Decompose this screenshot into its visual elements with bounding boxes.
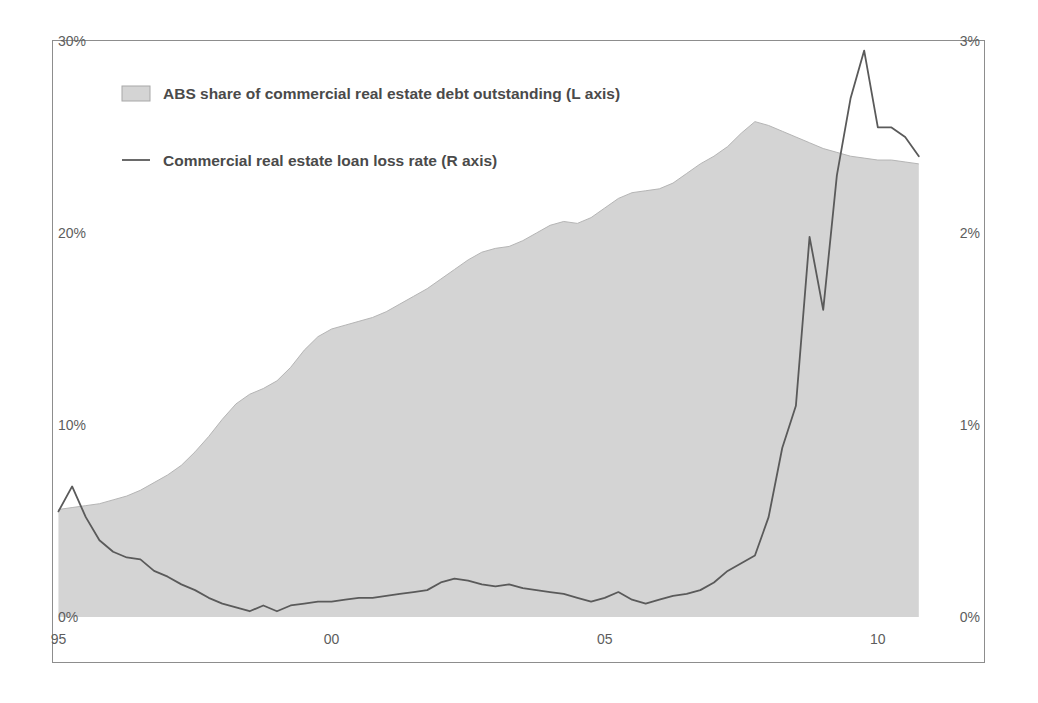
y-right-tick-2: 2% xyxy=(960,225,980,241)
y-left-tick-0: 0% xyxy=(58,609,78,625)
legend-label-abs-share: ABS share of commercial real estate debt… xyxy=(163,85,620,102)
chart-figure: 0%10%20%30% 0%1%2%3% 95000510 ABS share … xyxy=(0,0,1038,703)
y-right-tick-3: 3% xyxy=(960,33,980,49)
legend-label-loss-rate: Commercial real estate loan loss rate (R… xyxy=(163,152,497,169)
x-axis-ticks: 95000510 xyxy=(51,631,886,647)
x-tick-1: 00 xyxy=(324,631,340,647)
legend-swatch-abs-share xyxy=(122,86,150,101)
series-area-abs-share xyxy=(58,122,918,617)
x-tick-3: 10 xyxy=(870,631,886,647)
y-left-tick-2: 20% xyxy=(58,225,86,241)
chart-legend: ABS share of commercial real estate debt… xyxy=(122,85,620,169)
y-axis-right-ticks: 0%1%2%3% xyxy=(960,33,980,625)
chart-canvas: 0%10%20%30% 0%1%2%3% 95000510 ABS share … xyxy=(0,0,1038,703)
x-tick-0: 95 xyxy=(51,631,67,647)
y-right-tick-1: 1% xyxy=(960,417,980,433)
y-left-tick-3: 30% xyxy=(58,33,86,49)
x-tick-2: 05 xyxy=(597,631,613,647)
y-left-tick-1: 10% xyxy=(58,417,86,433)
y-right-tick-0: 0% xyxy=(960,609,980,625)
